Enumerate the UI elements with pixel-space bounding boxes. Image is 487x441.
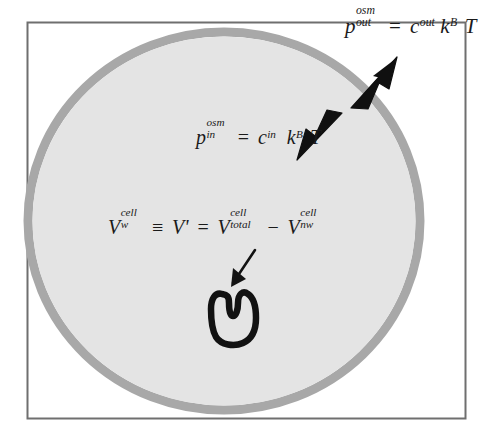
eq-vol-minus: − bbox=[265, 216, 282, 238]
eq-out-T: T bbox=[465, 14, 477, 38]
eq-out-k: k bbox=[440, 14, 449, 38]
eq-in-c: c bbox=[258, 126, 267, 148]
eq-out-p: p bbox=[345, 14, 356, 38]
eq-vol-vprime-mark: ' bbox=[184, 216, 188, 238]
figure-container: posmout=coutkBT posmin=cinkBT Vcellw≡V'=… bbox=[0, 0, 487, 441]
eq-vol-nw-V: V bbox=[288, 216, 300, 238]
eq-in-equals: = bbox=[235, 126, 252, 148]
eq-out-equals: = bbox=[386, 14, 404, 38]
eq-vol-identity: ≡ bbox=[149, 216, 166, 238]
equation-osmotic-pressure-inside: posmin=cinkBT bbox=[196, 124, 321, 147]
eq-in-k: k bbox=[287, 126, 296, 148]
eq-out-c: c bbox=[410, 14, 419, 38]
equation-osmotic-pressure-outside: posmout=coutkBT bbox=[345, 12, 476, 37]
eq-vol-equals: = bbox=[195, 216, 212, 238]
equation-cell-water-volume: Vcellw≡V'=Vcelltotal−Vcellnw bbox=[108, 214, 300, 237]
eq-vol-lhs-V: V bbox=[108, 216, 120, 238]
eq-in-p: p bbox=[196, 126, 206, 148]
eq-vol-total-V: V bbox=[217, 216, 229, 238]
eq-vol-vprime-V: V bbox=[172, 216, 184, 238]
eq-in-T: T bbox=[310, 126, 321, 148]
